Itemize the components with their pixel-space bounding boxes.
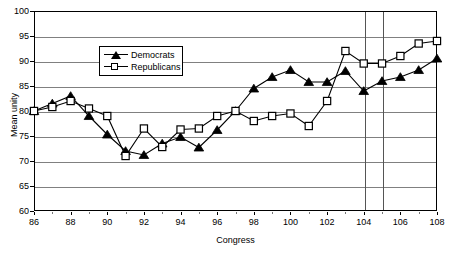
datapoint-republicans-96 bbox=[214, 112, 221, 119]
datapoint-republicans-97 bbox=[232, 107, 239, 114]
series-republicans bbox=[30, 37, 440, 159]
datapoint-republicans-99 bbox=[269, 112, 276, 119]
datapoint-republicans-100 bbox=[287, 110, 294, 117]
datapoint-republicans-104 bbox=[360, 60, 367, 67]
datapoint-republicans-86 bbox=[30, 107, 37, 114]
datapoint-republicans-88 bbox=[67, 97, 74, 104]
datapoint-republicans-108 bbox=[433, 37, 440, 44]
datapoint-republicans-98 bbox=[250, 117, 257, 124]
datapoint-democrats-107 bbox=[414, 66, 424, 74]
datapoint-republicans-105 bbox=[378, 60, 385, 67]
datapoint-republicans-87 bbox=[49, 103, 56, 110]
datapoint-democrats-108 bbox=[432, 54, 442, 62]
datapoint-republicans-101 bbox=[305, 122, 312, 129]
datapoint-republicans-106 bbox=[397, 52, 404, 59]
datapoint-republicans-94 bbox=[177, 126, 184, 133]
datapoint-democrats-98 bbox=[249, 84, 259, 92]
datapoint-republicans-102 bbox=[323, 97, 330, 104]
series-layer bbox=[0, 0, 450, 256]
datapoint-republicans-91 bbox=[122, 152, 129, 159]
datapoint-republicans-90 bbox=[104, 112, 111, 119]
datapoint-republicans-92 bbox=[140, 125, 147, 132]
datapoint-republicans-89 bbox=[85, 105, 92, 112]
datapoint-republicans-103 bbox=[342, 47, 349, 54]
datapoint-republicans-107 bbox=[415, 40, 422, 47]
chart-figure: 6065707580859095100 86889092949698100102… bbox=[0, 0, 450, 256]
datapoint-democrats-99 bbox=[267, 73, 277, 81]
datapoint-republicans-95 bbox=[195, 125, 202, 132]
datapoint-democrats-94 bbox=[176, 133, 186, 141]
datapoint-democrats-103 bbox=[341, 67, 351, 75]
datapoint-democrats-106 bbox=[396, 73, 406, 81]
datapoint-republicans-93 bbox=[159, 143, 166, 150]
datapoint-democrats-100 bbox=[286, 66, 296, 74]
